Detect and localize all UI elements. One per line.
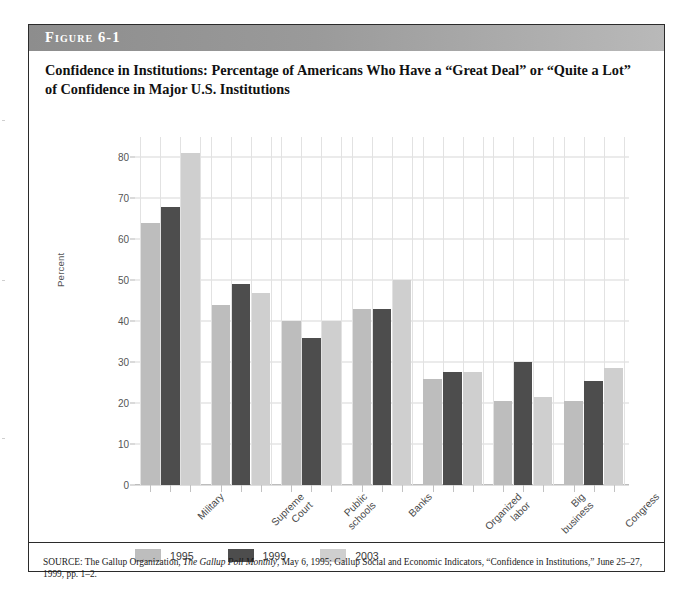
x-axis-category-label: Banks: [406, 491, 435, 520]
y-axis-tick-mark: [130, 280, 135, 281]
bar: [161, 207, 180, 485]
y-axis-tick-mark: [130, 239, 135, 240]
x-axis-tick-mark: [362, 485, 363, 492]
x-axis-tick-mark: [523, 485, 524, 492]
x-axis-tick-mark: [170, 485, 171, 492]
bar: [322, 321, 341, 485]
x-axis-category-label: Organized labor: [482, 491, 533, 542]
x-axis-tick-mark: [241, 485, 242, 492]
bar: [494, 401, 513, 485]
bar: [393, 280, 412, 485]
y-axis-tick-label: 30: [118, 357, 129, 368]
x-axis-category-label: Supreme Court: [269, 491, 316, 538]
figure-number-label: Figure 6-1: [45, 29, 121, 46]
bar: [302, 338, 321, 485]
x-axis-category-label: Public schools: [338, 491, 380, 533]
y-axis-tick-label: 10: [118, 439, 129, 450]
figure-title: Confidence in Institutions: Percentage o…: [45, 61, 643, 99]
x-axis-tick-mark: [594, 485, 595, 492]
y-gridline: [135, 157, 629, 158]
y-axis-tick-mark: [130, 321, 135, 322]
y-axis-tick-mark: [130, 198, 135, 199]
chart-plot-area: 01020304050607080MilitarySupreme CourtPu…: [135, 137, 629, 485]
y-axis-tick-mark: [130, 485, 135, 486]
x-gridline: [412, 137, 413, 485]
x-axis-tick-mark: [261, 485, 262, 492]
source-note: SOURCE: The Gallup Organization, The Gal…: [43, 556, 655, 580]
bar: [373, 309, 392, 485]
bar: [564, 401, 583, 485]
bar: [463, 372, 482, 485]
bar: [534, 397, 553, 485]
bar: [141, 223, 160, 485]
y-axis-tick-label: 70: [118, 193, 129, 204]
x-axis-tick-mark: [291, 485, 292, 492]
y-gridline: [135, 280, 629, 281]
x-axis-category-label: Military: [196, 491, 228, 523]
y-gridline: [135, 198, 629, 199]
y-axis-tick-label: 60: [118, 234, 129, 245]
figure-box: Figure 6-1 Confidence in Institutions: P…: [28, 24, 665, 572]
y-axis-tick-mark: [130, 362, 135, 363]
y-axis-label: Percent: [55, 167, 66, 287]
bar: [212, 305, 231, 485]
bar: [282, 321, 301, 485]
y-axis-tick-label: 50: [118, 275, 129, 286]
x-axis-category-label: Big business: [551, 491, 597, 537]
y-axis-tick-mark: [130, 157, 135, 158]
x-axis-tick-mark: [614, 485, 615, 492]
scan-edge: [0, 120, 8, 440]
bar: [252, 293, 271, 485]
x-axis-tick-mark: [311, 485, 312, 492]
bar: [181, 153, 200, 485]
bar: [584, 381, 603, 485]
source-divider: [29, 542, 664, 543]
figure-header-band: Figure 6-1: [29, 25, 664, 51]
x-axis-tick-mark: [433, 485, 434, 492]
y-gridline: [135, 239, 629, 240]
y-axis-tick-label: 80: [118, 152, 129, 163]
x-axis-tick-mark: [503, 485, 504, 492]
bar: [423, 379, 442, 485]
figure-page: Figure 6-1 Confidence in Institutions: P…: [0, 0, 693, 596]
x-gridline: [271, 137, 272, 485]
bar: [443, 372, 462, 485]
x-gridline: [553, 137, 554, 485]
x-axis-tick-mark: [402, 485, 403, 492]
x-axis-tick-mark: [574, 485, 575, 492]
bar: [232, 284, 251, 485]
bar: [604, 368, 623, 485]
x-axis-tick-mark: [473, 485, 474, 492]
x-gridline: [341, 137, 342, 485]
y-axis-tick-label: 0: [123, 480, 129, 491]
x-axis-tick-mark: [382, 485, 383, 492]
source-journal-title: The Gallup Poll Monthly: [183, 557, 277, 567]
y-axis-tick-label: 40: [118, 316, 129, 327]
bar: [353, 309, 372, 485]
x-axis-tick-mark: [190, 485, 191, 492]
x-axis-tick-mark: [331, 485, 332, 492]
x-axis-tick-mark: [221, 485, 222, 492]
y-axis-tick-mark: [130, 403, 135, 404]
x-axis-tick-mark: [453, 485, 454, 492]
x-axis-category-label: Congress: [622, 491, 662, 531]
x-axis-tick-mark: [150, 485, 151, 492]
chart-plot-wrapper: Percent 01020304050607080MilitarySupreme…: [89, 137, 629, 485]
y-axis-tick-label: 20: [118, 398, 129, 409]
x-gridline: [624, 137, 625, 485]
x-gridline: [483, 137, 484, 485]
x-axis-tick-mark: [543, 485, 544, 492]
y-axis-tick-mark: [130, 444, 135, 445]
x-gridline: [200, 137, 201, 485]
bar: [514, 362, 533, 485]
